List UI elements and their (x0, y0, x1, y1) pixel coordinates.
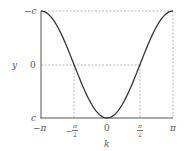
frac-num: π (138, 122, 142, 129)
x-axis-label: k (104, 140, 109, 149)
x-tick-neg-half-pi: π 2 (72, 123, 78, 138)
x-tick-pi: π (170, 124, 176, 133)
frac-den: 2 (73, 131, 77, 138)
frac-num: π (73, 122, 77, 129)
cosine-curve (41, 11, 173, 118)
y-tick-c: c (31, 114, 36, 123)
x-tick-half-pi: π 2 (137, 123, 143, 138)
chart-plot (0, 0, 186, 151)
x-tick-zero: 0 (104, 124, 110, 133)
reference-lines (41, 11, 173, 118)
frac-den: 2 (138, 131, 142, 138)
y-axis-label: y (12, 61, 17, 70)
y-tick-neg-c: −c (24, 7, 37, 16)
x-tick-neg-pi: −π (33, 124, 46, 133)
y-tick-zero: 0 (30, 61, 36, 70)
